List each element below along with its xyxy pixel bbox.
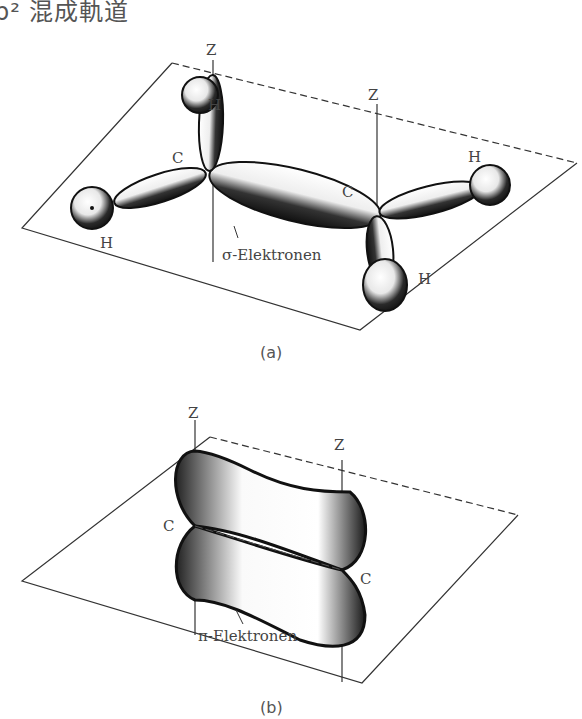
z-axis-label-right: Z [334,436,344,454]
atom-label-c: C [163,517,174,535]
figure-a: Z Z H C H C H H σ-Elektronen (a) [22,41,577,362]
atom-label-h: H [100,234,113,252]
z-axis-label-right: Z [368,86,378,104]
z-axis-label-left: Z [188,404,198,422]
atom-label-h: H [468,148,481,166]
sigma-electrons-label: σ-Elektronen [222,246,322,264]
pi-electrons-label: π-Elektronen [198,627,297,645]
atom-label-h: H [418,270,431,288]
atom-label-c: C [360,570,371,588]
atom-label-c: C [172,149,183,167]
atom-label-h: H [208,96,221,114]
figure-caption-b: (b) [260,698,283,717]
figure-b: Z Z C C π-Elektronen (b) [22,404,518,717]
z-axis-label-left: Z [206,41,216,59]
atom-label-c: C [342,183,353,201]
figure-caption-a: (a) [260,343,282,362]
orbital-diagram: Z Z H C H C H H σ-Elektronen (a) Z Z C C… [0,0,582,719]
